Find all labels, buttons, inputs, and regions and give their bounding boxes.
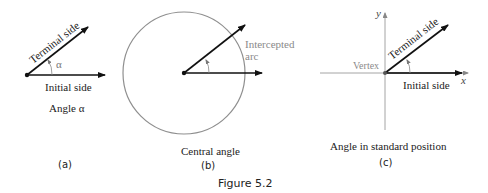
panel-title: Angle α xyxy=(49,102,85,114)
panel-title: Angle in standard position xyxy=(330,140,447,152)
figure-caption: Figure 5.2 xyxy=(218,177,273,190)
terminal-side-label: Terminal side xyxy=(386,15,441,61)
initial-side-label: Initial side xyxy=(403,79,450,91)
initial-side-label: Initial side xyxy=(45,81,92,93)
vertex-dot xyxy=(383,71,387,75)
panel-title: Central angle xyxy=(181,145,240,157)
angle-symbol: α xyxy=(56,58,62,70)
intercepted-arc-label-line1: Intercepted xyxy=(245,38,295,50)
panel-label: (b) xyxy=(201,160,215,171)
x-axis-label: x xyxy=(460,74,466,86)
figure-5-2: α Terminal side Initial side Angle α (a)… xyxy=(0,0,488,193)
angle-arc-icon xyxy=(206,60,209,73)
angle-arc-icon xyxy=(407,60,410,73)
y-axis-label: y xyxy=(375,7,381,19)
angle-arc-icon xyxy=(48,60,52,75)
vertex-label: Vertex xyxy=(353,60,379,71)
panel-label: (a) xyxy=(58,159,72,170)
panel-a: α Terminal side Initial side Angle α (a) xyxy=(25,19,105,170)
panel-c: y x Vertex Terminal side Initial side An… xyxy=(320,7,468,168)
terminal-side-label: Terminal side xyxy=(27,19,82,65)
intercepted-arc-label-line2: arc xyxy=(245,50,259,62)
vertex-dot xyxy=(25,73,29,77)
vertex-dot xyxy=(182,71,186,75)
panel-b: Intercepted arc Central angle (b) Figure… xyxy=(123,12,295,190)
panel-label: (c) xyxy=(379,157,392,168)
terminal-side-ray xyxy=(184,25,245,73)
